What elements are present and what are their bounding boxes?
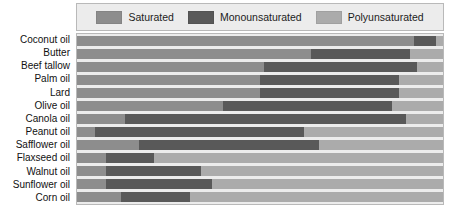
y-axis-label: Palm oil (0, 74, 74, 84)
legend-swatch-polyunsaturated (316, 11, 342, 24)
y-axis-labels: Coconut oilButterBeef tallowPalm oilLard… (0, 33, 74, 205)
bar-segment-saturated (77, 114, 125, 124)
legend-swatch-saturated (96, 11, 122, 24)
bar-segment-polyunsaturated (201, 166, 443, 176)
bar-segment-saturated (77, 88, 260, 98)
plot-area (76, 33, 444, 205)
bar-row (77, 140, 443, 150)
bar-segment-polyunsaturated (392, 101, 443, 111)
bar-segment-saturated (77, 127, 95, 137)
bar-row (77, 179, 443, 189)
bar-segment-polyunsaturated (436, 36, 443, 46)
bar-segment-saturated (77, 62, 264, 72)
legend-entry-polyunsaturated: Polyunsaturated (316, 11, 424, 24)
bar-segment-saturated (77, 75, 260, 85)
bar-segment-monounsaturated (125, 114, 407, 124)
bar-segment-polyunsaturated (406, 114, 443, 124)
bar-segment-saturated (77, 101, 223, 111)
bar-segment-polyunsaturated (190, 192, 443, 202)
bar-segment-polyunsaturated (417, 62, 443, 72)
y-axis-label: Coconut oil (0, 35, 74, 45)
bar-segment-saturated (77, 153, 106, 163)
y-axis-label: Canola oil (0, 114, 74, 124)
bar-row (77, 127, 443, 137)
y-axis-label: Walnut oil (0, 167, 74, 177)
legend-label-polyunsaturated: Polyunsaturated (348, 12, 424, 23)
bar-row (77, 101, 443, 111)
bar-segment-saturated (77, 166, 106, 176)
bar-segment-monounsaturated (414, 36, 436, 46)
bar-row (77, 36, 443, 46)
bar-row (77, 88, 443, 98)
bar-segment-saturated (77, 140, 139, 150)
bar-segment-polyunsaturated (154, 153, 443, 163)
bar-row (77, 49, 443, 59)
chart-legend: Saturated Monounsaturated Polyunsaturate… (76, 3, 444, 31)
bar-segment-monounsaturated (106, 179, 212, 189)
bar-segment-saturated (77, 192, 121, 202)
bar-segment-monounsaturated (260, 88, 399, 98)
bar-segment-saturated (77, 36, 414, 46)
bar-segment-monounsaturated (311, 49, 410, 59)
bar-row (77, 192, 443, 202)
y-axis-label: Beef tallow (0, 61, 74, 71)
y-axis-label: Lard (0, 88, 74, 98)
bar-segment-polyunsaturated (399, 88, 443, 98)
legend-entry-monounsaturated: Monounsaturated (188, 11, 302, 24)
bar-segment-monounsaturated (139, 140, 318, 150)
bar-segment-monounsaturated (95, 127, 304, 137)
bar-segment-polyunsaturated (410, 49, 443, 59)
bar-segment-polyunsaturated (212, 179, 443, 189)
bar-row (77, 75, 443, 85)
bar-segment-monounsaturated (223, 101, 391, 111)
bar-segment-monounsaturated (260, 75, 399, 85)
y-axis-label: Flaxseed oil (0, 153, 74, 163)
y-axis-label: Butter (0, 48, 74, 58)
y-axis-label: Sunflower oil (0, 180, 74, 190)
legend-label-saturated: Saturated (128, 12, 174, 23)
y-axis-label: Corn oil (0, 193, 74, 203)
bar-row (77, 153, 443, 163)
bar-segment-saturated (77, 179, 106, 189)
bar-row (77, 114, 443, 124)
bar-segment-monounsaturated (264, 62, 418, 72)
legend-swatch-monounsaturated (188, 11, 214, 24)
bar-rows-container (77, 34, 443, 204)
y-axis-label: Olive oil (0, 101, 74, 111)
bar-segment-saturated (77, 49, 311, 59)
legend-entry-saturated: Saturated (96, 11, 174, 24)
legend-label-monounsaturated: Monounsaturated (220, 12, 302, 23)
y-axis-label: Peanut oil (0, 127, 74, 137)
bar-segment-monounsaturated (106, 166, 201, 176)
bar-segment-polyunsaturated (399, 75, 443, 85)
fat-composition-chart: Saturated Monounsaturated Polyunsaturate… (0, 0, 456, 218)
bar-segment-polyunsaturated (319, 140, 443, 150)
bar-row (77, 62, 443, 72)
bar-row (77, 166, 443, 176)
y-axis-label: Safflower oil (0, 140, 74, 150)
bar-segment-monounsaturated (106, 153, 154, 163)
bar-segment-polyunsaturated (304, 127, 443, 137)
bar-segment-monounsaturated (121, 192, 191, 202)
